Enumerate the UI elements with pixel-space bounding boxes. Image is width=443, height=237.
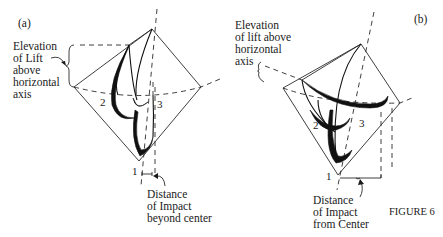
panel-a-diagram [51, 9, 220, 186]
panel-b-elevation-label-2: of lift above [235, 31, 291, 43]
panel-a-impact-label-1: Distance [147, 188, 187, 200]
panel-b-impact-label-3: from Center [313, 218, 369, 230]
panel-a-impact-label-2: of Impact [147, 200, 191, 212]
panel-a-elevation-label-3: above [13, 64, 40, 76]
panel-a-elevation-label-5: axis [13, 88, 32, 100]
panel-b-point-1: 1 [326, 171, 332, 182]
panel-b-horizontal-axis [283, 88, 412, 103]
panel-b-elevation-line [265, 66, 302, 80]
panel-a-elevation-bracket [66, 45, 74, 87]
panel-b-tag: (b) [414, 13, 427, 25]
panel-b-impact-bracket [340, 174, 381, 178]
panel-a-elevation-label-4: horizontal [13, 76, 60, 88]
panel-a-impact-label-3: beyond center [147, 212, 212, 224]
panel-a-point-3: 3 [157, 99, 163, 110]
panel-b-elevation-label-3: horizontal [235, 43, 282, 55]
panel-a-point-1: 1 [132, 166, 138, 177]
panel-a-stroke-1 [133, 110, 153, 156]
panel-a-tag: (a) [18, 17, 31, 29]
panel-b-stroke-3 [302, 80, 388, 108]
figure-caption: FIGURE 6 [389, 206, 435, 218]
figure-drawing [0, 0, 443, 237]
panel-a-horizontal-axis [74, 79, 220, 96]
panel-a-elevation-label-1: Elevation [13, 40, 57, 52]
panel-b-impact-label-2: of Impact [313, 206, 357, 218]
panel-b-elevation-bracket [258, 62, 265, 82]
panel-b-impact-label-1: Distance [313, 194, 353, 206]
panel-a-elevation-label-2: of Lift [13, 52, 43, 64]
panel-a-impact-bracket [142, 172, 152, 176]
panel-b-point-3: 3 [359, 118, 365, 129]
panel-a-point-2: 2 [100, 97, 106, 108]
panel-b-diamond [283, 44, 400, 175]
panel-b-elevation-label-1: Elevation [235, 19, 279, 31]
panel-b-point-2: 2 [313, 120, 319, 131]
panel-b-elevation-label-4: axis [235, 55, 254, 67]
